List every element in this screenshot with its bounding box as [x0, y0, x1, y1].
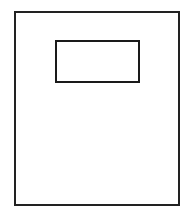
label-box [55, 40, 140, 83]
